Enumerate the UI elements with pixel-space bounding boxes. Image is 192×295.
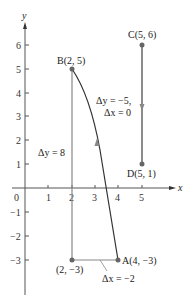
coordinate-diagram: y x 0 1 2 3 4 5 1 2 3 4 5 6 −1 −2 −3 bbox=[0, 0, 192, 295]
y-tick-4: 4 bbox=[16, 88, 21, 99]
y-ticks: 1 2 3 4 5 6 −1 −2 −3 bbox=[10, 40, 29, 266]
point-d bbox=[140, 162, 145, 167]
y-axis-label: y bbox=[21, 10, 27, 21]
label-point-a: A(4, −3) bbox=[122, 255, 157, 267]
y-tick-neg3: −3 bbox=[10, 255, 21, 266]
x-tick-3: 3 bbox=[92, 192, 97, 203]
annotation-delta-x-ab: Δx = −2 bbox=[102, 273, 135, 284]
x-tick-4: 4 bbox=[115, 192, 120, 203]
delta-x-leader-line bbox=[100, 260, 107, 271]
y-tick-5: 5 bbox=[16, 64, 21, 75]
point-a bbox=[116, 258, 121, 263]
y-tick-2: 2 bbox=[16, 135, 21, 146]
annotation-delta-x-cd: Δx = 0 bbox=[104, 107, 131, 118]
label-point-corner: (2, −3) bbox=[56, 264, 83, 276]
y-tick-1: 1 bbox=[16, 159, 21, 170]
annotation-delta-y-cd: Δy = −5, bbox=[96, 95, 131, 106]
label-point-d: D(5, 1) bbox=[127, 168, 156, 180]
y-tick-6: 6 bbox=[16, 40, 21, 51]
label-point-c: C(5, 6) bbox=[128, 29, 156, 41]
point-c bbox=[140, 43, 145, 48]
y-tick-neg1: −1 bbox=[10, 207, 21, 218]
y-axis-arrow-icon bbox=[23, 22, 27, 29]
y-tick-3: 3 bbox=[16, 111, 21, 122]
label-point-b: B(2, 5) bbox=[57, 55, 85, 67]
y-tick-neg2: −2 bbox=[10, 231, 21, 242]
x-tick-1: 1 bbox=[46, 192, 51, 203]
x-axis-label: x bbox=[177, 182, 183, 193]
x-axis-arrow-icon bbox=[169, 186, 176, 190]
point-corner bbox=[70, 258, 75, 263]
x-tick-5: 5 bbox=[139, 192, 144, 203]
segment-direction-arrow-icon bbox=[140, 104, 145, 111]
origin-label: 0 bbox=[14, 192, 19, 203]
point-b bbox=[70, 67, 75, 72]
annotation-delta-y-ab: Δy = 8 bbox=[38, 147, 65, 158]
